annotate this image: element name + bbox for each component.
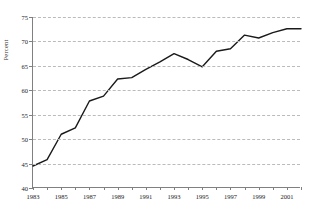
x-axis-tick	[47, 187, 48, 190]
series-percent-line	[33, 29, 301, 166]
x-axis-tick-label: 1995	[196, 193, 209, 200]
x-axis-tick	[216, 187, 217, 190]
y-axis-tick	[29, 164, 33, 165]
x-axis-tick-label: 1999	[252, 193, 265, 200]
x-axis-tick	[75, 187, 76, 190]
y-axis-tick-label: 60	[22, 87, 29, 94]
x-axis-tick	[160, 187, 161, 190]
gridline-y	[33, 66, 300, 67]
y-axis-tick-label: 70	[22, 38, 29, 45]
x-axis-tick	[259, 187, 260, 190]
gridline-y	[33, 90, 300, 91]
x-axis-tick-label: 1987	[83, 193, 96, 200]
x-axis-tick	[230, 187, 231, 190]
x-axis-tick	[273, 187, 274, 190]
x-axis-tick	[287, 187, 288, 190]
plot-area: 4045505560657075198319851987198919911993…	[32, 17, 300, 188]
x-axis-tick	[33, 187, 34, 190]
y-axis-title: Percent	[2, 20, 9, 80]
y-axis-tick	[29, 17, 33, 18]
gridline-y	[33, 17, 300, 18]
y-axis-tick-label: 75	[22, 14, 29, 21]
x-axis-tick	[245, 187, 246, 190]
y-axis-tick-label: 65	[22, 62, 29, 69]
y-axis-tick-label: 40	[22, 185, 29, 192]
x-axis-tick	[188, 187, 189, 190]
gridline-y	[33, 139, 300, 140]
x-axis-tick-label: 1997	[224, 193, 237, 200]
x-axis-tick	[61, 187, 62, 190]
x-axis-tick	[146, 187, 147, 190]
x-axis-tick	[202, 187, 203, 190]
y-axis-tick-label: 45	[22, 160, 29, 167]
x-axis-tick	[132, 187, 133, 190]
gridline-y	[33, 115, 300, 116]
x-axis-tick-label: 1991	[139, 193, 152, 200]
y-axis-tick	[29, 139, 33, 140]
x-axis-tick-label: 1985	[55, 193, 68, 200]
y-axis-tick-label: 55	[22, 111, 29, 118]
x-axis-tick-label: 2001	[280, 193, 293, 200]
x-axis-tick-label: 1989	[111, 193, 124, 200]
y-axis-tick	[29, 90, 33, 91]
x-axis-tick	[174, 187, 175, 190]
x-axis-tick	[118, 187, 119, 190]
y-axis-tick-label: 50	[22, 136, 29, 143]
x-axis-tick	[104, 187, 105, 190]
x-axis-tick-label: 1993	[168, 193, 181, 200]
x-axis-tick	[89, 187, 90, 190]
y-axis-tick	[29, 115, 33, 116]
line-chart: Percent 40455055606570751983198519871989…	[0, 0, 313, 219]
x-axis-tick	[301, 187, 302, 190]
x-axis-tick-label: 1983	[27, 193, 40, 200]
y-axis-tick	[29, 41, 33, 42]
y-axis-tick	[29, 66, 33, 67]
gridline-y	[33, 41, 300, 42]
data-series-line	[33, 17, 301, 188]
gridline-y	[33, 164, 300, 165]
